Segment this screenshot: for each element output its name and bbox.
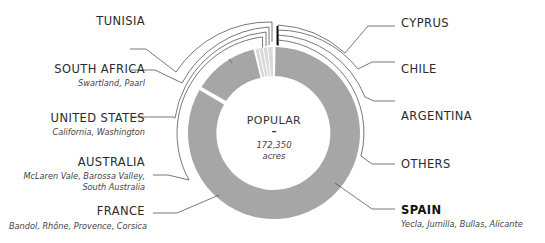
label-australia: AUSTRALIA [78,155,145,169]
label-cyprus: CYPRUS [401,16,449,30]
sublabel-united-states: California, Washington [53,127,145,138]
label-chile: CHILE [401,62,437,76]
sublabel-spain: Yecla, Jumilla, Bullas, Alicante [401,219,523,230]
leader-france [153,195,219,213]
highlight-tick [277,26,279,45]
center-value: 172,350 [224,140,324,150]
label-spain: SPAIN [401,203,441,217]
label-france: FRANCE [97,204,145,218]
center-unit: acres [224,151,324,161]
slice-france [202,50,261,102]
center-dash: – [224,126,324,137]
sublabel-australia-line1: McLaren Vale, Barossa Valley, [23,171,145,182]
label-others: OTHERS [401,157,451,171]
leader-spain [335,183,395,209]
label-argentina: ARGENTINA [401,109,472,123]
sublabel-australia-line2: South Australia [82,182,145,193]
label-south-africa: SOUTH AFRICA [54,62,145,76]
label-tunisia: TUNISIA [96,14,145,28]
sublabel-france: Bandol, Rhône, Provence, Corsica [9,221,147,232]
sublabel-south-africa: Swartland, Paarl [78,78,145,89]
label-united-states: UNITED STATES [51,111,145,125]
